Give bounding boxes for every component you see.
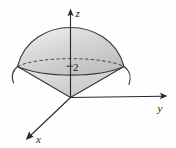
cusp-arc-left [12,67,17,84]
x-axis [26,98,71,140]
figure-container: z y x 2 [0,0,176,148]
z-axis-label: z [75,7,81,19]
three-d-solid-diagram: z y x 2 [0,0,176,148]
y-axis-label: y [157,102,163,114]
x-axis-arrowhead [26,131,34,140]
cusp-arc-right [124,67,130,85]
x-axis-label: x [35,133,41,145]
z-tick-label-2: 2 [73,61,79,73]
y-axis [71,93,168,100]
